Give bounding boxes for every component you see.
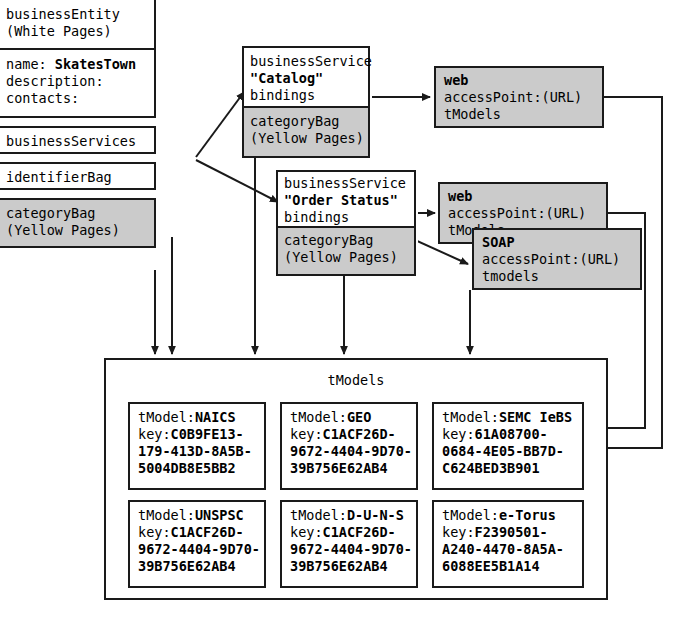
binding-template-soap[interactable]: SOAP accessPoint:(URL) tmodels [472,228,642,290]
binding2-protocol-label: web [448,188,472,205]
catalog-category-bag[interactable]: categoryBag (Yellow Pages) [242,106,370,158]
business-entity-description-label: description: [6,73,104,90]
catalog-category-bag-line2: (Yellow Pages) [250,130,364,147]
etorus-key-line2: A240-4470-8A5A- [442,541,564,558]
geo-key-line2: 9672-4404-9D70- [290,443,412,460]
orderstatus-service-type: businessService [284,175,406,192]
unspsc-key-line2: 9672-4404-9D70- [138,541,260,558]
catalog-service-name: "Catalog" [250,70,323,87]
unspsc-key-row: key:C1ACF26D- [138,524,244,541]
geo-name-row: tModel:GEO [290,409,371,426]
business-entity-contacts-label: contacts: [6,90,79,107]
catalog-service-header: businessService "Catalog" bindings [242,46,370,108]
naics-name-row: tModel:NAICS [138,409,236,426]
unspsc-key-line1: C1ACF26D- [171,524,244,540]
tmodel-cell-etorus[interactable]: tModel:e-Torus key:F2390501- A240-4470-8… [432,500,584,588]
duns-key-line1: C1ACF26D- [323,524,396,540]
orderstatus-service-header: businessService "Order Status" bindings [276,170,416,228]
duns-key-line2: 9672-4404-9D70- [290,541,412,558]
duns-key-line3: 39B756E62AB4 [290,558,388,575]
orderstatus-category-bag-line2: (Yellow Pages) [284,249,398,266]
naics-key-line2: 179-413D-8A5B- [138,443,252,460]
unspsc-name-label: tModel: [138,507,195,523]
tmodel-cell-naics[interactable]: tModel:NAICS key:C0B9FE13- 179-413D-8A5B… [128,402,266,490]
catalog-bindings-label[interactable]: bindings [250,87,315,104]
orderstatus-bindings-label[interactable]: bindings [284,209,349,226]
business-entity-name-label: name: [6,56,55,72]
duns-name-row: tModel:D-U-N-S [290,507,404,524]
semc-name-label: tModel: [442,409,499,425]
wire-services-to-catalog [196,92,244,157]
semc-name-row: tModel:SEMC IeBS [442,409,572,426]
entity-category-bag-line2: (Yellow Pages) [6,222,120,239]
geo-name-value: GEO [347,409,371,425]
etorus-name-label: tModel: [442,507,499,523]
orderstatus-category-bag[interactable]: categoryBag (Yellow Pages) [276,226,416,276]
binding1-protocol-label: web [444,72,468,89]
etorus-key-label: key: [442,524,475,540]
diagram-canvas: businessEntity (White Pages) name: Skate… [0,0,689,626]
etorus-key-line3: 6088EE5B1A14 [442,558,540,575]
tmodel-cell-duns[interactable]: tModel:D-U-N-S key:C1ACF26D- 9672-4404-9… [280,500,418,588]
geo-key-row: key:C1ACF26D- [290,426,396,443]
duns-name-value: D-U-N-S [347,507,404,523]
business-service-catalog-box[interactable]: businessService "Catalog" bindings categ… [244,46,372,158]
unspsc-key-label: key: [138,524,171,540]
tmodels-container[interactable]: tModels tModel:NAICS key:C0B9FE13- 179-4… [104,358,608,600]
business-entity-header: businessEntity (White Pages) [0,0,156,50]
binding1-tmodels-label: tModels [444,106,501,123]
unspsc-key-line3: 39B756E62AB4 [138,558,236,575]
unspsc-name-value: UNSPSC [195,507,244,523]
semc-key-line2: 0684-4E05-BB7D- [442,443,564,460]
business-entity-name-value: SkatesTown [55,56,136,72]
business-services-label: businessServices [6,133,136,150]
semc-key-line1: 61A08700- [475,426,548,442]
duns-name-label: tModel: [290,507,347,523]
catalog-service-type: businessService [250,53,372,70]
soap-protocol-label: SOAP [482,234,515,251]
business-entity-header-line1: businessEntity [6,6,120,23]
orderstatus-category-bag-line1: categoryBag [284,232,373,249]
binding1-access-point: accessPoint:(URL) [444,89,582,106]
soap-tmodels-label: tmodels [482,268,539,285]
etorus-key-line1: F2390501- [475,524,548,540]
orderstatus-service-name: "Order Status" [284,192,398,209]
geo-name-label: tModel: [290,409,347,425]
identifier-bag-label: identifierBag [6,169,112,186]
business-service-orderstatus-box[interactable]: businessService "Order Status" bindings … [278,170,418,276]
naics-name-label: tModel: [138,409,195,425]
binding2-access-point: accessPoint:(URL) [448,205,586,222]
semc-key-row: key:61A08700- [442,426,548,443]
business-entity-name-row: name: SkatesTown [6,56,136,73]
duns-key-label: key: [290,524,323,540]
geo-key-line1: C1ACF26D- [323,426,396,442]
business-entity-categorybag-row[interactable]: categoryBag (Yellow Pages) [0,198,156,248]
duns-key-row: key:C1ACF26D- [290,524,396,541]
naics-name-value: NAICS [195,409,236,425]
wire-services-to-orderstatus [196,160,278,202]
etorus-name-row: tModel:e-Torus [442,507,556,524]
etorus-name-value: e-Torus [499,507,556,523]
naics-key-line3: 5004DB8E5BB2 [138,460,236,477]
tmodel-cell-semc[interactable]: tModel:SEMC IeBS key:61A08700- 0684-4E05… [432,402,584,490]
naics-key-line1: C0B9FE13- [171,426,244,442]
catalog-category-bag-line1: categoryBag [250,113,339,130]
entity-category-bag-line1: categoryBag [6,205,95,222]
business-entity-details: name: SkatesTown description: contacts: [0,48,156,118]
naics-key-label: key: [138,426,171,442]
tmodels-title: tModels [106,372,606,388]
naics-key-row: key:C0B9FE13- [138,426,244,443]
binding-template-web-1[interactable]: web accessPoint:(URL) tModels [434,66,604,128]
geo-key-line3: 39B756E62AB4 [290,460,388,477]
semc-name-value: SEMC IeBS [499,409,572,425]
business-entity-header-line2: (White Pages) [6,23,112,40]
unspsc-name-row: tModel:UNSPSC [138,507,244,524]
semc-key-line3: C624BED3B901 [442,460,540,477]
geo-key-label: key: [290,426,323,442]
business-entity-identifierbag-row[interactable]: identifierBag [0,162,156,190]
tmodel-cell-geo[interactable]: tModel:GEO key:C1ACF26D- 9672-4404-9D70-… [280,402,418,490]
etorus-key-row: key:F2390501- [442,524,548,541]
semc-key-label: key: [442,426,475,442]
tmodel-cell-unspsc[interactable]: tModel:UNSPSC key:C1ACF26D- 9672-4404-9D… [128,500,266,588]
business-entity-services-row[interactable]: businessServices [0,126,156,154]
